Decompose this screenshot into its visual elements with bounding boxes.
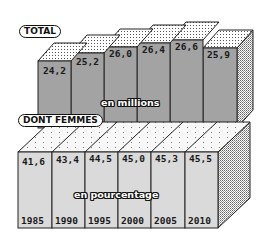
women-value-2005: 45,3 bbox=[155, 153, 178, 164]
year-1990: 1990 bbox=[55, 215, 78, 226]
year-2000: 2000 bbox=[121, 215, 144, 226]
total-value-2000: 26,4 bbox=[142, 44, 165, 55]
total-value-2005: 26,6 bbox=[175, 41, 198, 52]
total-value-1995: 26,0 bbox=[109, 48, 132, 59]
women-value-1990: 43,4 bbox=[56, 154, 79, 165]
total-bars bbox=[38, 22, 253, 128]
women-value-2010: 45,5 bbox=[189, 153, 212, 164]
total-value-2010: 25,9 bbox=[207, 49, 230, 60]
year-2005: 2005 bbox=[154, 215, 177, 226]
women-value-1995: 44,5 bbox=[89, 153, 112, 164]
total-value-1990: 25,2 bbox=[76, 56, 99, 67]
women-value-1985: 41,6 bbox=[22, 156, 45, 167]
percent-caption: en pourcentage bbox=[74, 189, 158, 200]
year-2010: 2010 bbox=[188, 215, 211, 226]
women-label: DONT FEMMES bbox=[18, 114, 103, 127]
year-1985: 1985 bbox=[21, 215, 44, 226]
millions-caption: en millions bbox=[101, 97, 159, 108]
women-value-2000: 45,0 bbox=[122, 153, 145, 164]
total-value-1985: 24,2 bbox=[43, 65, 66, 76]
total-label: TOTAL bbox=[19, 25, 61, 38]
women-bars bbox=[18, 122, 250, 228]
year-1995: 1995 bbox=[88, 215, 111, 226]
